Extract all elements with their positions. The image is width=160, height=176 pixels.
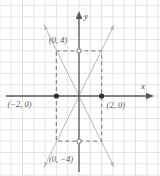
y-axis-arrow-up xyxy=(76,11,82,19)
point-label-y-intercept-negative: (0, −4) xyxy=(49,155,73,164)
line-arrowhead xyxy=(110,25,114,30)
x-axis-label: x xyxy=(141,82,145,91)
x-axis-arrow-right xyxy=(146,93,154,99)
line-arrowhead xyxy=(44,25,48,30)
point-label-y-intercept-positive: (0, 4) xyxy=(49,36,67,45)
point-label-x-intercept-positive: (2, 0) xyxy=(107,101,125,110)
point-label-x-intercept-negative: (−2, 0) xyxy=(7,100,31,109)
grid-layer xyxy=(0,0,160,176)
data-point-open xyxy=(77,139,81,143)
axes-layer xyxy=(6,11,154,172)
data-point-open xyxy=(77,49,81,53)
line-arrowhead xyxy=(110,162,114,167)
graph-figure: x y (0, 4) (−2, 0) (2, 0) (0, −4) xyxy=(0,0,160,176)
data-point-filled xyxy=(99,93,104,98)
line-arrowhead xyxy=(44,162,48,167)
data-point-filled xyxy=(54,93,59,98)
y-axis-label: y xyxy=(84,12,88,21)
coordinate-plane-svg xyxy=(0,0,160,176)
